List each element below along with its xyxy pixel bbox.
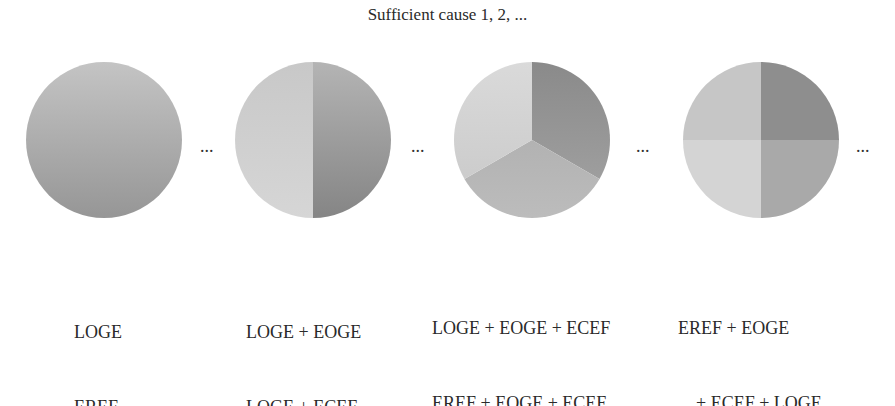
combination-label: LOGE [74, 320, 122, 345]
pie-3 [454, 62, 610, 218]
ellipsis-1: ... [200, 136, 214, 157]
pie-4-labels: EREF + EOGE + ECEF + LOGE [678, 266, 822, 406]
pie-4-segment-top-left [683, 62, 761, 140]
pie-4-segment-bottom-left [683, 140, 761, 218]
combination-label: EREF [74, 395, 122, 406]
combination-label: LOGE + ECEF [246, 395, 361, 406]
combination-label: EREF + EOGE + ECEF [432, 391, 610, 406]
pie-3-labels: LOGE + EOGE + ECEF EREF + EOGE + ECEF ER… [432, 266, 610, 406]
pie-1-segment [26, 62, 182, 218]
ellipsis-2: ... [411, 136, 425, 157]
pie-2 [235, 62, 391, 218]
ellipsis-4: ... [856, 136, 870, 157]
pie-2-labels: LOGE + EOGE LOGE + ECEF EREF + EOGE EREF… [246, 270, 361, 406]
ellipsis-3: ... [636, 136, 650, 157]
pie-2-segment-right [313, 62, 391, 218]
combination-label: LOGE + EOGE [246, 320, 361, 345]
pie-2-segment-left [235, 62, 313, 218]
pie-4-segment-bottom-right [761, 140, 839, 218]
combination-label: LOGE + EOGE + ECEF [432, 316, 610, 341]
combination-label: + ECEF + LOGE [678, 391, 822, 406]
combination-label: EREF + EOGE [678, 316, 822, 341]
pie-1 [26, 62, 182, 218]
pie-4-segment-top-right [761, 62, 839, 140]
pie-1-labels: LOGE EREF [74, 270, 122, 406]
pie-4 [683, 62, 839, 218]
